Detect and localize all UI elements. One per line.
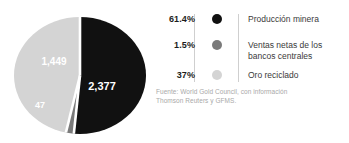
source-note: Fuente: World Gold Council, con informac… bbox=[156, 88, 348, 105]
legend-dot-black-icon bbox=[212, 14, 222, 24]
pie-chart-graphic: 2,377 1,449 47 bbox=[14, 17, 146, 134]
legend-marker-cell-2 bbox=[195, 69, 239, 80]
legend-marker-cell-1 bbox=[195, 39, 239, 50]
pie-svg: 2,377 1,449 47 bbox=[14, 17, 146, 134]
legend-item-ventas-netas[interactable]: 1.5% Ventas netas de los bancos centrale… bbox=[155, 39, 349, 61]
legend-percent-produccion-minera: 61.4% bbox=[155, 13, 195, 25]
legend-dot-light-icon bbox=[212, 70, 222, 80]
legend-percent-oro-reciclado: 37% bbox=[155, 69, 195, 81]
legend-item-produccion-minera[interactable]: 61.4% Producción minera bbox=[155, 13, 349, 25]
legend-item-oro-reciclado[interactable]: 37% Oro reciclado bbox=[155, 69, 349, 81]
legend-percent-ventas-netas: 1.5% bbox=[155, 39, 195, 51]
legend-label-oro-reciclado: Oro reciclado bbox=[239, 69, 349, 81]
source-note-line-1: Fuente: World Gold Council, con informac… bbox=[156, 88, 348, 97]
legend-label-ventas-netas: Ventas netas de los bancos centrales bbox=[239, 39, 349, 61]
legend: 61.4% Producción minera 1.5% Ventas neta… bbox=[155, 13, 349, 83]
pie-data-label-oro-reciclado: 1,449 bbox=[41, 56, 66, 67]
pie-chart-figure: 2,377 1,449 47 61.4% Producción minera 1… bbox=[0, 0, 349, 143]
source-note-line-2: Thomson Reuters y GFMS. bbox=[156, 97, 348, 106]
legend-marker-cell-0 bbox=[195, 13, 239, 24]
legend-label-produccion-minera: Producción minera bbox=[239, 13, 349, 25]
legend-dot-gray-icon bbox=[212, 40, 222, 50]
pie-data-label-ventas-netas: 47 bbox=[35, 100, 45, 110]
pie-data-label-produccion-minera: 2,377 bbox=[88, 80, 116, 92]
